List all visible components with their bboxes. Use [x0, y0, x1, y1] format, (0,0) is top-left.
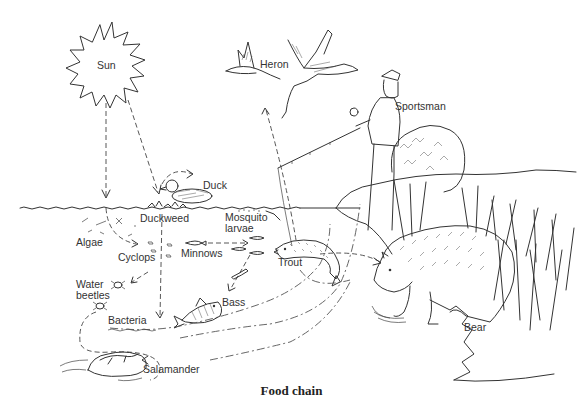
duckweed-label: Duckweed: [140, 213, 189, 224]
algae-to-cyclops-arrow: [106, 208, 136, 244]
trout-label: Trout: [278, 257, 302, 268]
salamander-icon: [60, 352, 146, 381]
water-surface: [20, 207, 360, 209]
algae-icon: [82, 218, 136, 236]
shore-bank: [336, 170, 576, 381]
bass-icon: [174, 298, 222, 328]
bass-label: Bass: [222, 297, 245, 308]
cyclops-to-water-beetles-arrow: [132, 272, 148, 282]
algae-label: Algae: [76, 237, 103, 248]
sportsman-icon: [278, 70, 400, 246]
cyclops-label: Cyclops: [118, 252, 155, 263]
minnows-label: Minnows: [181, 248, 222, 259]
sunlight-arrows: [102, 100, 161, 198]
bacteria-label: Bacteria: [108, 315, 147, 326]
sun-label: Sun: [97, 60, 116, 71]
water-beetles-label-line2: beetles: [76, 290, 110, 301]
bear-icon: [372, 226, 515, 324]
food-chain-illustration: [0, 0, 583, 409]
trout-to-heron-arrow: [266, 110, 296, 240]
salamander-label: Salamander: [143, 364, 200, 375]
trout-to-bear-arrow: [320, 253, 380, 262]
mosquito-larvae-label-line2: larvae: [225, 223, 254, 234]
heron-icon: [226, 30, 358, 118]
food-chain-diagram: Sun Heron Sportsman Duck Duckweed Mosqui…: [0, 0, 583, 409]
heron-label: Heron: [260, 59, 289, 70]
sportsman-label: Sportsman: [395, 101, 446, 112]
bear-label: Bear: [464, 322, 486, 333]
bush-icon: [391, 125, 464, 192]
duckweed-to-bacteria-arrow: [160, 214, 162, 318]
figure-caption: Food chain: [0, 383, 583, 399]
duck-label: Duck: [203, 180, 227, 191]
